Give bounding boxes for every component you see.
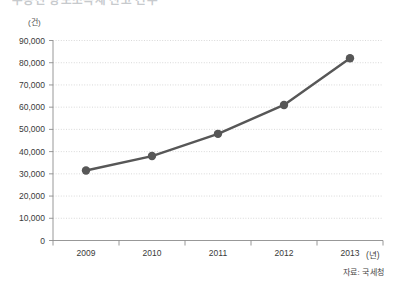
y-axis-labels-group: 010,00020,00030,00040,00050,00060,00070,… — [19, 36, 45, 246]
x-axis-tick-label: 2011 — [209, 248, 228, 258]
y-axis-tick-label: 40,000 — [19, 147, 45, 157]
data-point-markers-group — [82, 54, 354, 175]
y-axis-tick-label: 10,000 — [19, 213, 45, 223]
data-point-marker — [214, 130, 222, 138]
data-point-marker — [148, 152, 156, 160]
x-axis-tick-label: 2010 — [143, 248, 162, 258]
y-axis-tick-label: 50,000 — [19, 124, 45, 134]
x-axis-tick-label: 2013 — [341, 248, 360, 258]
y-axis-tick-label: 0 — [40, 236, 45, 246]
data-point-marker — [280, 101, 288, 109]
x-axis-labels-group: 20092010201120122013 — [77, 248, 360, 258]
line-chart-svg: 010,00020,00030,00040,00050,00060,00070,… — [0, 0, 396, 290]
gridlines-group — [53, 41, 383, 219]
data-point-marker — [82, 166, 90, 174]
chart-plot-area: 010,00020,00030,00040,00050,00060,00070,… — [0, 0, 396, 290]
y-axis-tick-label: 70,000 — [19, 80, 45, 90]
y-axis-tick-label: 80,000 — [19, 58, 45, 68]
y-axis-tick-label: 20,000 — [19, 191, 45, 201]
y-axis-tick-label: 90,000 — [19, 36, 45, 46]
x-axis-tick-label: 2009 — [77, 248, 96, 258]
data-point-marker — [346, 54, 354, 62]
series-line — [86, 58, 350, 170]
x-axis-tick-label: 2012 — [275, 248, 294, 258]
y-axis-tick-label: 60,000 — [19, 102, 45, 112]
y-axis-tick-label: 30,000 — [19, 169, 45, 179]
y-axis-ticks-group — [49, 41, 53, 241]
x-axis-ticks-group — [53, 241, 383, 246]
